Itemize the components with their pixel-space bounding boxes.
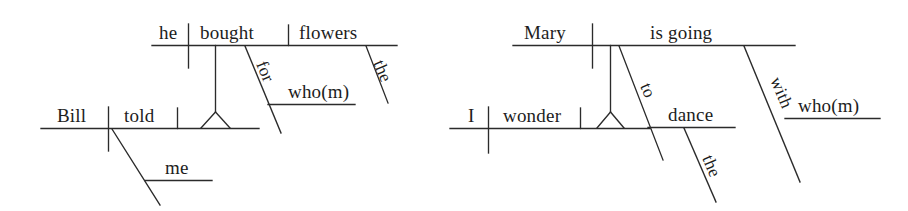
- left-label-for: for: [252, 58, 279, 85]
- left-diagram: he bought flowers for who(m) the Bill to…: [41, 22, 397, 205]
- left-label-whom: who(m): [288, 81, 349, 103]
- left-label-bought: bought: [200, 22, 254, 43]
- right-diagram: Mary is going to dance the with who(m) I…: [450, 22, 880, 202]
- left-label-me: me: [165, 157, 189, 178]
- right-pedestal-right-leg: [611, 112, 625, 128]
- right-prep-with-slant: [744, 46, 800, 182]
- sentence-diagram-figure: he bought flowers for who(m) the Bill to…: [0, 0, 908, 211]
- right-pedestal-left-leg: [597, 112, 611, 128]
- left-label-told: told: [124, 105, 155, 126]
- left-label-the: the: [369, 57, 396, 85]
- left-pedestal-left-leg: [201, 112, 216, 128]
- right-label-i: I: [468, 105, 475, 126]
- right-label-mary: Mary: [524, 22, 566, 43]
- left-prep-for-slant: [245, 46, 281, 133]
- right-label-the: the: [698, 152, 725, 180]
- diagram-canvas: he bought flowers for who(m) the Bill to…: [0, 0, 908, 211]
- left-pedestal-right-leg: [216, 112, 231, 128]
- right-label-is-going: is going: [650, 22, 713, 43]
- right-label-whom: who(m): [798, 95, 859, 117]
- right-infinitive-to-slant: [619, 46, 663, 160]
- left-indirect-object-slant: [112, 129, 160, 205]
- right-label-to: to: [636, 80, 660, 101]
- left-label-flowers: flowers: [299, 22, 357, 43]
- left-label-bill: Bill: [57, 105, 86, 126]
- right-label-wonder: wonder: [503, 105, 562, 126]
- right-label-with: with: [766, 74, 797, 111]
- left-label-he: he: [159, 22, 177, 43]
- right-label-dance: dance: [668, 104, 713, 125]
